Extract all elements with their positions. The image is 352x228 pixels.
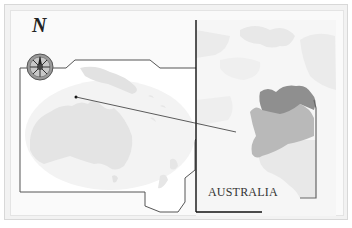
compass-rose-icon bbox=[27, 54, 53, 80]
region-label: AUSTRALIA bbox=[208, 185, 278, 200]
north-label: N bbox=[32, 14, 46, 37]
map-canvas bbox=[0, 0, 352, 228]
overview-map bbox=[20, 60, 205, 212]
